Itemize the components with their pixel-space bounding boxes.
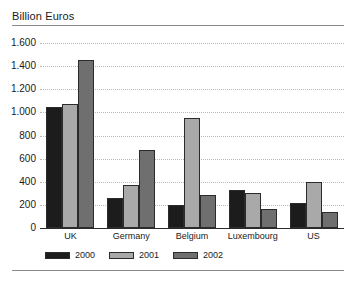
bar-germany-2002[interactable] xyxy=(139,150,155,228)
bar-group-uk xyxy=(46,43,94,228)
bar-uk-2001[interactable] xyxy=(62,104,78,228)
bar-germany-2001[interactable] xyxy=(123,185,139,228)
legend-label-2001: 2001 xyxy=(139,250,159,260)
legend-swatch-2002 xyxy=(173,252,198,259)
bar-us-2001[interactable] xyxy=(306,182,322,228)
y-axis-tick-label: 1.400 xyxy=(0,61,36,71)
chart-title: Billion Euros xyxy=(12,10,344,23)
y-axis-tick-label: 600 xyxy=(0,154,36,164)
bar-luxembourg-2001[interactable] xyxy=(245,193,261,228)
y-axis-tick-label: 1.000 xyxy=(0,107,36,117)
x-axis-label-germany: Germany xyxy=(113,231,150,242)
bar-us-2000[interactable] xyxy=(290,203,306,228)
y-axis-tick-label: 1.600 xyxy=(0,38,36,48)
legend-swatch-2001 xyxy=(109,252,134,259)
y-axis-tick-label: 0 xyxy=(0,223,36,233)
chart-title-block: Billion Euros xyxy=(12,10,344,26)
legend-label-2000: 2000 xyxy=(75,250,95,260)
bar-us-2002[interactable] xyxy=(322,212,338,228)
legend-swatch-2000 xyxy=(45,252,70,259)
bar-uk-2000[interactable] xyxy=(46,107,62,228)
bar-group-germany xyxy=(107,43,155,228)
title-divider xyxy=(12,25,344,26)
bar-belgium-2001[interactable] xyxy=(184,118,200,228)
plot-area xyxy=(40,43,344,228)
bar-belgium-2000[interactable] xyxy=(168,205,184,228)
x-axis-label-belgium: Belgium xyxy=(176,231,209,242)
y-axis-tick-label: 400 xyxy=(0,177,36,187)
bar-group-belgium xyxy=(168,43,216,228)
legend-label-2002: 2002 xyxy=(203,250,223,260)
y-axis-tick-label: 800 xyxy=(0,131,36,141)
x-axis-label-luxembourg: Luxembourg xyxy=(228,231,278,242)
y-axis-tick-label: 200 xyxy=(0,200,36,210)
x-axis-label-us: US xyxy=(307,231,320,242)
x-axis-line xyxy=(40,228,344,229)
x-axis-label-uk: UK xyxy=(64,231,77,242)
bar-group-luxembourg xyxy=(229,43,277,228)
bar-luxembourg-2000[interactable] xyxy=(229,190,245,228)
legend-item-2002[interactable]: 2002 xyxy=(173,250,223,260)
bottom-divider xyxy=(12,270,344,271)
bar-luxembourg-2002[interactable] xyxy=(261,209,277,228)
chart-figure: Billion Euros 02004006008001.0001.2001.4… xyxy=(0,0,356,284)
legend-item-2000[interactable]: 2000 xyxy=(45,250,95,260)
bar-germany-2000[interactable] xyxy=(107,198,123,228)
bar-uk-2002[interactable] xyxy=(78,60,94,228)
legend-item-2001[interactable]: 2001 xyxy=(109,250,159,260)
y-axis-tick-label: 1.200 xyxy=(0,84,36,94)
bar-group-us xyxy=(290,43,338,228)
y-axis-tick-labels: 02004006008001.0001.2001.4001.600 xyxy=(0,43,36,228)
chart-legend: 200020012002 xyxy=(45,250,223,260)
bar-belgium-2002[interactable] xyxy=(200,195,216,228)
x-axis-category-labels: UKGermanyBelgiumLuxembourgUS xyxy=(40,231,344,245)
